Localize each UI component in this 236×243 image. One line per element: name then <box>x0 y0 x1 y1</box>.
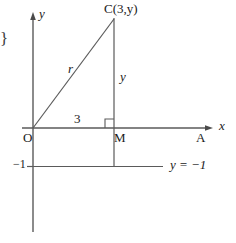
point-label-o: O <box>23 131 32 144</box>
point-label-c: C(3,y) <box>104 2 138 15</box>
y-axis-arrowhead-icon <box>30 12 36 20</box>
right-angle-marker-icon <box>105 119 114 128</box>
point-label-m: M <box>114 131 126 144</box>
axis-label-y: y <box>39 7 45 20</box>
line-equation-label: y = −1 <box>170 158 206 171</box>
figure-canvas <box>0 0 236 243</box>
segment-label-base-3: 3 <box>74 112 81 125</box>
y-tick-label-minus-one: −1 <box>13 158 26 170</box>
geometry-figure: } C(3,y) y x O M A r y 3 −1 y = −1 <box>0 0 236 243</box>
segment-label-r: r <box>68 62 73 75</box>
x-axis-arrowhead-icon <box>205 125 213 131</box>
left-edge-brace-artifact: } <box>0 30 8 47</box>
point-label-a: A <box>196 131 205 144</box>
segment-label-y: y <box>120 70 126 83</box>
axis-label-x: x <box>219 119 225 132</box>
